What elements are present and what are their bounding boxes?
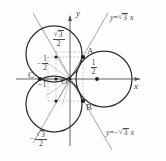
- point-right-centre-dot: [95, 77, 99, 81]
- lower-left-circle: [26, 76, 82, 132]
- point-origin-dot: [69, 78, 72, 81]
- point-upper-left-dot: [54, 55, 57, 58]
- value-label-neg-one: −1: [38, 81, 47, 89]
- eq-upper-radicand: 3: [122, 13, 128, 22]
- sqrt-icon: √3: [118, 13, 128, 22]
- eq-upper-var: x: [130, 13, 134, 22]
- point-label-C: C: [28, 71, 34, 80]
- neg-one-half-denominator: 2: [42, 64, 48, 72]
- line-equation-lower: y=−√3 x: [106, 128, 134, 137]
- y-axis-arrowhead: [68, 15, 72, 21]
- sqrt-icon: √3: [119, 128, 129, 137]
- eq-lower-var: x: [131, 128, 135, 137]
- figure-canvas: [0, 0, 166, 161]
- sqrt-icon: √3: [36, 130, 46, 139]
- sqrt3-over-2-numerator: √3: [53, 30, 65, 40]
- line-equation-upper: y=√3 x: [110, 13, 134, 22]
- point-label-A: A: [87, 47, 94, 56]
- point-B-dot: [81, 99, 85, 103]
- sqrt-icon: √3: [54, 30, 64, 39]
- neg-sqrt3-over-2-denominator: 2: [35, 140, 47, 148]
- neg-sqrt3-over-2-numerator: √3: [35, 130, 47, 140]
- origin-label: O: [61, 77, 68, 86]
- value-label-neg-one-half: − 1 2: [37, 55, 48, 73]
- point-A-dot: [81, 55, 85, 59]
- point-label-B: B: [86, 103, 92, 112]
- value-label-neg-sqrt3-over-2: − √3 2: [30, 130, 47, 149]
- one-half-denominator: 2: [91, 68, 97, 76]
- eq-lower-radicand: 3: [123, 128, 129, 137]
- point-half-left-dot: [54, 77, 57, 80]
- x-axis-label: x: [134, 82, 138, 91]
- value-label-sqrt3-over-2: √3 2: [52, 30, 65, 49]
- y-axis-label: y: [76, 9, 80, 18]
- point-lower-left-dot: [54, 99, 57, 102]
- value-label-one-half: 1 2: [90, 59, 97, 77]
- sqrt3-over-2-denominator: 2: [53, 40, 65, 48]
- math-figure: y x O A B C y=√3 x y=−√3 x √3 2 − 1 2 1 …: [0, 0, 166, 161]
